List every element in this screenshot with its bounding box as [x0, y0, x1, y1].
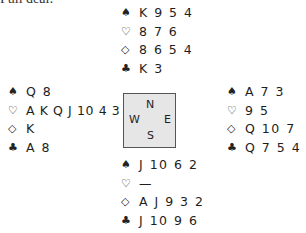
- west-clubs-row: ♣A 8: [8, 139, 133, 158]
- west-hearts: A K Q J 10 4 3 2: [26, 102, 133, 121]
- south-hand: ♠J 10 6 2 ♡— ◇A J 9 3 2 ♣J 10 9 6: [121, 156, 205, 230]
- east-hand: ♠A 7 3 ♡9 5 ◇Q 10 7 ♣Q 7 5 4 2: [227, 83, 306, 157]
- compass-east: E: [164, 113, 171, 126]
- west-hearts-row: ♡A K Q J 10 4 3 2: [8, 102, 133, 121]
- heart-icon: ♡: [8, 102, 26, 121]
- north-diamonds-row: ◇8 6 5 4: [121, 41, 193, 60]
- north-spades-row: ♠K 9 5 4: [121, 4, 193, 23]
- diamond-icon: ◇: [121, 41, 139, 60]
- west-spades: Q 8: [26, 83, 52, 102]
- spade-icon: ♠: [121, 156, 139, 175]
- north-hand: ♠K 9 5 4 ♡8 7 6 ◇8 6 5 4 ♣K 3: [121, 4, 193, 78]
- south-spades-row: ♠J 10 6 2: [121, 156, 205, 175]
- caption: Full deal:: [0, 0, 53, 7]
- compass-south: S: [147, 129, 154, 142]
- east-clubs: Q 7 5 4 2: [245, 139, 306, 158]
- spade-icon: ♠: [8, 83, 26, 102]
- east-diamonds-row: ◇Q 10 7: [227, 120, 306, 139]
- west-hand: ♠Q 8 ♡A K Q J 10 4 3 2 ◇K ♣A 8: [8, 83, 133, 157]
- west-diamonds-row: ◇K: [8, 120, 133, 139]
- club-icon: ♣: [121, 60, 139, 79]
- west-clubs: A 8: [26, 139, 51, 158]
- compass-north: N: [146, 98, 154, 111]
- diamond-icon: ◇: [8, 120, 26, 139]
- spade-icon: ♠: [227, 83, 245, 102]
- south-diamonds-row: ◇A J 9 3 2: [121, 193, 205, 212]
- south-hearts: —: [139, 175, 153, 194]
- diamond-icon: ◇: [121, 193, 139, 212]
- compass-west: W: [129, 113, 140, 126]
- east-diamonds: Q 10 7: [245, 120, 296, 139]
- west-diamonds: K: [26, 120, 36, 139]
- north-hearts-row: ♡8 7 6: [121, 23, 193, 42]
- east-hearts: 9 5: [245, 102, 269, 121]
- south-diamonds: A J 9 3 2: [139, 193, 205, 212]
- compass-box: N W E S: [123, 93, 176, 148]
- north-hearts: 8 7 6: [139, 23, 178, 42]
- west-spades-row: ♠Q 8: [8, 83, 133, 102]
- club-icon: ♣: [121, 212, 139, 231]
- south-hearts-row: ♡—: [121, 175, 205, 194]
- heart-icon: ♡: [227, 102, 245, 121]
- diamond-icon: ◇: [227, 120, 245, 139]
- heart-icon: ♡: [121, 23, 139, 42]
- south-spades: J 10 6 2: [139, 156, 198, 175]
- club-icon: ♣: [8, 139, 26, 158]
- north-clubs-row: ♣K 3: [121, 60, 193, 79]
- south-clubs: J 10 9 6: [139, 212, 198, 231]
- north-diamonds: 8 6 5 4: [139, 41, 193, 60]
- spade-icon: ♠: [121, 4, 139, 23]
- east-clubs-row: ♣Q 7 5 4 2: [227, 139, 306, 158]
- heart-icon: ♡: [121, 175, 139, 194]
- east-spades: A 7 3: [245, 83, 285, 102]
- north-clubs: K 3: [139, 60, 164, 79]
- club-icon: ♣: [227, 139, 245, 158]
- east-hearts-row: ♡9 5: [227, 102, 306, 121]
- north-spades: K 9 5 4: [139, 4, 193, 23]
- east-spades-row: ♠A 7 3: [227, 83, 306, 102]
- south-clubs-row: ♣J 10 9 6: [121, 212, 205, 231]
